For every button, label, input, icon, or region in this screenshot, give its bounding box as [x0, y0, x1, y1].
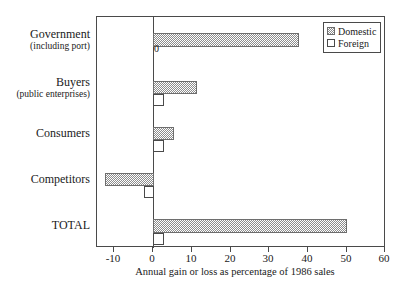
- xtick-label-minus10: -10: [93, 252, 133, 265]
- annotation-government-foreign-zero: 0: [154, 44, 159, 54]
- category-label-government-main: Government: [30, 27, 90, 41]
- bar-consumers-foreign: [153, 140, 164, 152]
- category-label-government: Government (including port): [0, 28, 90, 52]
- xtick-label-60: 60: [364, 252, 404, 265]
- bar-buyers-foreign: [153, 94, 164, 106]
- legend-item-domestic: Domestic: [327, 25, 376, 37]
- category-label-buyers-main: Buyers: [56, 75, 90, 89]
- category-label-buyers-sub: (public enterprises): [0, 89, 90, 100]
- category-label-buyers: Buyers (public enterprises): [0, 76, 90, 100]
- xtick-label-40: 40: [287, 252, 327, 265]
- legend-swatch-foreign-icon: [327, 39, 335, 47]
- bar-total-foreign: [153, 233, 164, 245]
- xtick-label-10: 10: [171, 252, 211, 265]
- category-label-government-sub: (including port): [0, 41, 90, 52]
- bar-buyers-domestic: [153, 81, 197, 94]
- category-label-consumers: Consumers: [0, 127, 90, 140]
- category-label-competitors: Competitors: [0, 173, 90, 186]
- bar-competitors-foreign: [144, 186, 154, 198]
- legend: Domestic Foreign: [323, 22, 381, 53]
- legend-item-foreign: Foreign: [327, 37, 376, 49]
- bar-competitors-domestic: [105, 173, 154, 186]
- bar-government-domestic: [153, 33, 299, 47]
- legend-label-domestic: Domestic: [338, 26, 376, 37]
- category-label-consumers-main: Consumers: [36, 126, 90, 140]
- category-label-total: TOTAL: [0, 219, 90, 232]
- legend-label-foreign: Foreign: [338, 38, 369, 49]
- bar-chart: Domestic Foreign 0 Government (including…: [0, 0, 412, 291]
- xtick-label-50: 50: [326, 252, 366, 265]
- xtick-label-0: 0: [132, 252, 172, 265]
- xtick-label-30: 30: [248, 252, 288, 265]
- x-axis-title: Annual gain or loss as percentage of 198…: [0, 266, 412, 277]
- category-label-total-main: TOTAL: [52, 218, 90, 232]
- category-label-competitors-main: Competitors: [31, 172, 90, 186]
- plot-area: Domestic Foreign: [96, 16, 385, 247]
- legend-swatch-domestic-icon: [327, 27, 335, 35]
- xtick-label-20: 20: [210, 252, 250, 265]
- bar-consumers-domestic: [153, 127, 174, 140]
- bar-total-domestic: [153, 219, 347, 233]
